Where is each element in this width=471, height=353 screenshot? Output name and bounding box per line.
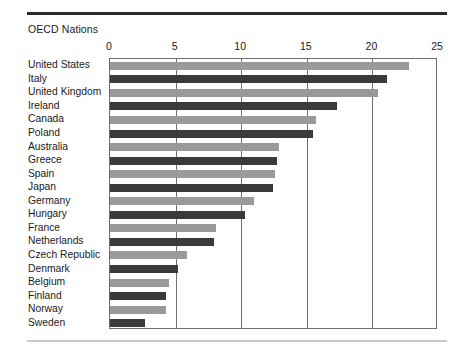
bar-belgium bbox=[110, 279, 169, 287]
x-tick-label-0: 0 bbox=[106, 40, 112, 52]
bar-greece bbox=[110, 157, 277, 165]
bar-canada bbox=[110, 116, 316, 124]
bar-france bbox=[110, 224, 216, 232]
bar-finland bbox=[110, 292, 166, 300]
category-axis-labels: United StatesItalyUnited KingdomIrelandC… bbox=[28, 58, 108, 329]
category-label-greece: Greece bbox=[28, 154, 62, 165]
x-tick-label-5: 5 bbox=[172, 40, 178, 52]
bar-hungary bbox=[110, 211, 245, 219]
x-axis-tick-labels: 0510152025 bbox=[109, 40, 437, 56]
chart-title: OECD Nations bbox=[28, 23, 98, 35]
bar-czech-republic bbox=[110, 251, 187, 259]
bottom-divider-rule bbox=[27, 340, 447, 342]
category-label-belgium: Belgium bbox=[28, 276, 65, 287]
bar-australia bbox=[110, 143, 279, 151]
category-label-canada: Canada bbox=[28, 113, 64, 124]
category-label-italy: Italy bbox=[28, 73, 47, 84]
bar-japan bbox=[110, 184, 273, 192]
bar-germany bbox=[110, 197, 254, 205]
bar-denmark bbox=[110, 265, 178, 273]
bar-norway bbox=[110, 306, 166, 314]
gridline-20 bbox=[372, 59, 373, 328]
chart-figure: OECD Nations 0510152025 United StatesIta… bbox=[0, 0, 471, 353]
category-label-united-states: United States bbox=[28, 59, 90, 70]
category-label-japan: Japan bbox=[28, 181, 56, 192]
gridline-10 bbox=[241, 59, 242, 328]
gridline-15 bbox=[307, 59, 308, 328]
category-label-finland: Finland bbox=[28, 290, 62, 301]
x-tick-label-20: 20 bbox=[366, 40, 378, 52]
gridline-5 bbox=[176, 59, 177, 328]
bar-italy bbox=[110, 75, 387, 83]
category-label-hungary: Hungary bbox=[28, 208, 67, 219]
x-tick-label-25: 25 bbox=[431, 40, 443, 52]
category-label-australia: Australia bbox=[28, 141, 68, 152]
category-label-ireland: Ireland bbox=[28, 100, 59, 111]
bar-poland bbox=[110, 130, 313, 138]
category-label-norway: Norway bbox=[28, 303, 63, 314]
plot-area bbox=[109, 58, 437, 329]
category-label-czech-republic: Czech Republic bbox=[28, 249, 100, 260]
category-label-sweden: Sweden bbox=[28, 317, 65, 328]
x-tick-label-15: 15 bbox=[300, 40, 312, 52]
bar-ireland bbox=[110, 102, 337, 110]
bar-netherlands bbox=[110, 238, 214, 246]
bar-united-kingdom bbox=[110, 89, 378, 97]
bar-sweden bbox=[110, 319, 145, 327]
category-label-united-kingdom: United Kingdom bbox=[28, 86, 101, 97]
top-divider-rule bbox=[27, 12, 447, 15]
x-tick-label-10: 10 bbox=[234, 40, 246, 52]
bar-united-states bbox=[110, 62, 409, 70]
category-label-poland: Poland bbox=[28, 127, 60, 138]
bar-spain bbox=[110, 170, 275, 178]
category-label-denmark: Denmark bbox=[28, 263, 70, 274]
category-label-netherlands: Netherlands bbox=[28, 235, 84, 246]
category-label-germany: Germany bbox=[28, 195, 70, 206]
category-label-france: France bbox=[28, 222, 60, 233]
category-label-spain: Spain bbox=[28, 168, 54, 179]
